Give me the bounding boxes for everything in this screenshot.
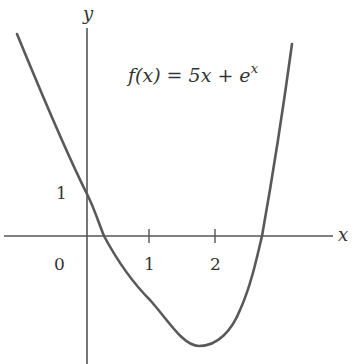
origin-label: 0 [54, 254, 65, 274]
chart-canvas: y x 0 1 2 1 f(x) = 5x + ex [0, 0, 355, 364]
function-plot: y x 0 1 2 1 f(x) = 5x + ex [0, 0, 355, 364]
x-axis-label: x [338, 224, 348, 245]
x-tick-label-1: 1 [144, 254, 155, 274]
function-annotation-exponent: x [251, 61, 259, 76]
function-annotation-main: f(x) = 5x + e [126, 64, 251, 86]
y-axis-label: y [82, 3, 94, 24]
x-tick-label-2: 2 [210, 254, 221, 274]
y-tick-label-1: 1 [56, 183, 67, 203]
function-annotation: f(x) = 5x + ex [126, 61, 259, 86]
